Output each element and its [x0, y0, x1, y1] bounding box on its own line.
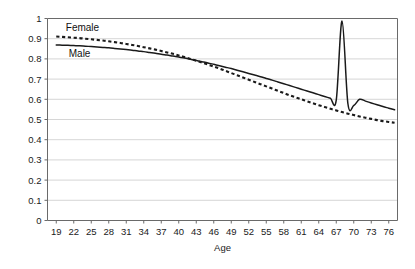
chart-figure: 00.10.20.30.40.50.60.70.80.91 1922252831…: [0, 0, 415, 269]
y-tick-label: 0.9: [28, 33, 41, 44]
y-tick-label: 0: [36, 215, 41, 226]
y-tick-label: 0.4: [28, 134, 41, 145]
x-tick-label: 46: [208, 226, 219, 237]
x-tick-label: 49: [226, 226, 237, 237]
x-tick-label: 70: [348, 226, 359, 237]
x-tick-label: 40: [173, 226, 184, 237]
x-tick-label: 64: [313, 226, 324, 237]
y-tick-label: 0.3: [28, 154, 41, 165]
y-tick-label: 0.1: [28, 195, 41, 206]
x-tick-label: 37: [156, 226, 167, 237]
male-series-label: Male: [69, 48, 91, 59]
y-tick-label: 0.7: [28, 74, 41, 85]
x-tick-label: 52: [243, 226, 254, 237]
x-tick-label: 43: [191, 226, 202, 237]
x-tick-label: 76: [383, 226, 394, 237]
y-tick-label: 0.5: [28, 114, 41, 125]
x-tick-label: 58: [278, 226, 289, 237]
x-tick-label: 19: [51, 226, 62, 237]
y-tick-label: 0.6: [28, 94, 41, 105]
y-tick-label: 0.2: [28, 175, 41, 186]
x-tick-label: 61: [296, 226, 307, 237]
x-axis-title: Age: [214, 242, 231, 253]
x-tick-label: 25: [86, 226, 97, 237]
x-tick-label: 31: [121, 226, 132, 237]
x-axis-title-group: Age: [214, 242, 231, 253]
female-series-label: Female: [66, 22, 100, 33]
x-tick-label: 34: [138, 226, 149, 237]
y-tick-label: 0.8: [28, 53, 41, 64]
x-tick-label: 28: [103, 226, 114, 237]
x-tick-label: 73: [366, 226, 377, 237]
x-tick-label: 67: [331, 226, 342, 237]
y-tick-label: 1: [36, 13, 41, 24]
x-tick-label: 22: [68, 226, 79, 237]
x-tick-label: 55: [261, 226, 272, 237]
chart-canvas: 00.10.20.30.40.50.60.70.80.91 1922252831…: [0, 0, 415, 269]
